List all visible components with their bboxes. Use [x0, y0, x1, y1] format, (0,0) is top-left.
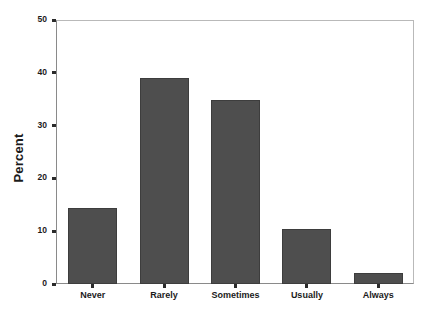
y-axis-tick-mark [52, 230, 56, 233]
x-axis-label-sometimes: Sometimes [200, 289, 271, 302]
x-axis-tick-mark [377, 284, 380, 288]
y-axis-tick-label: 10 [38, 225, 47, 236]
x-axis-label-always: Always [343, 289, 414, 302]
y-axis-tick-mark [52, 19, 56, 22]
bar-always[interactable] [354, 273, 403, 284]
y-axis-tick-label: 20 [38, 172, 47, 183]
y-axis-tick-label: 30 [38, 120, 47, 131]
bar-sometimes[interactable] [211, 100, 260, 284]
bars-container [57, 20, 414, 284]
y-axis-tick-label: 0 [42, 278, 47, 289]
x-axis-label-rarely: Rarely [128, 289, 199, 302]
bar-slot [354, 20, 403, 284]
bar-slot [68, 20, 117, 284]
y-axis-title: Percent [0, 0, 36, 316]
bar-never[interactable] [68, 208, 117, 284]
x-axis-tick-mark [163, 284, 166, 288]
x-axis-label-never: Never [57, 289, 128, 302]
y-axis-tick-mark [52, 283, 56, 286]
bar-slot [211, 20, 260, 284]
x-axis-label-usually: Usually [271, 289, 342, 302]
y-axis-tick-label: 40 [38, 67, 47, 78]
x-axis-labels: NeverRarelySometimesUsuallyAlways [57, 289, 414, 309]
y-axis-tick-mark [52, 124, 56, 127]
bar-rarely[interactable] [140, 78, 189, 284]
y-axis-tick-mark [52, 177, 56, 180]
x-axis-tick-mark [305, 284, 308, 288]
bar-usually[interactable] [282, 229, 331, 284]
bar-slot [282, 20, 331, 284]
y-axis-tick-label: 50 [38, 14, 47, 25]
x-axis-tick-mark [234, 284, 237, 288]
y-axis-tick-mark [52, 71, 56, 74]
bar-chart: Percent 01020304050 NeverRarelySometimes… [0, 0, 434, 316]
x-axis-tick-mark [91, 284, 94, 288]
bar-slot [140, 20, 189, 284]
